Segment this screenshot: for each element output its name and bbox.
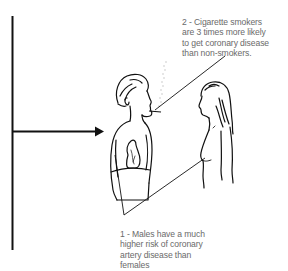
annotation-2-line-3: to get coronary disease [182, 38, 269, 48]
annotation-2-line-2: are 3 times more likely [182, 27, 269, 37]
cigarette-icon [149, 111, 161, 112]
leader-line-2 [155, 56, 225, 110]
annotation-1-line-1: 1 - Males have a much [120, 229, 205, 239]
female-figure [199, 82, 233, 188]
annotation-1-line-3: artery disease than [120, 250, 205, 260]
annotation-1-line-4: females [120, 260, 205, 270]
annotation-1-line-2: higher risk of coronary [120, 239, 205, 249]
smoke-icon [158, 61, 166, 106]
annotation-2-line-1: 2 - Cigarette smokers [182, 17, 269, 27]
annotation-2-line-4: than non-smokers. [182, 48, 269, 58]
leader-line-1 [115, 155, 205, 215]
male-smoker-figure [111, 74, 152, 200]
annotation-2-smokers: 2 - Cigarette smokers are 3 times more l… [182, 17, 269, 58]
arrow-icon [12, 127, 104, 137]
annotation-1-males: 1 - Males have a much higher risk of cor… [120, 229, 205, 270]
